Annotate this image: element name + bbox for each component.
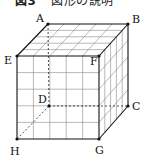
cube-diagram: ABCDEFGH	[0, 0, 148, 164]
right-face-grid-line	[99, 40, 128, 72]
edge-fb	[99, 24, 128, 56]
vertex-point-a	[46, 22, 49, 25]
vertex-label-d: D	[38, 93, 47, 106]
top-face-grid-line	[66, 24, 96, 56]
vertex-point-b	[126, 22, 129, 25]
vertex-label-c: C	[132, 100, 140, 113]
vertex-label-e: E	[4, 54, 12, 67]
vertex-labels: ABCDEFGH	[4, 12, 140, 158]
vertex-point-c	[126, 104, 129, 107]
vertex-label-g: G	[95, 144, 104, 157]
edge-cg	[99, 106, 128, 139]
vertex-label-h: H	[10, 145, 20, 158]
top-face-grid-line	[50, 24, 80, 56]
vertex-point-e	[15, 54, 18, 57]
vertex-label-b: B	[132, 13, 140, 26]
vertex-point-d	[47, 104, 50, 107]
vertex-point-h	[15, 137, 18, 140]
right-face-grid-line	[99, 57, 128, 89]
vertex-label-a: A	[35, 12, 45, 25]
top-face-grid-line	[33, 24, 64, 56]
top-face-grid-line	[83, 24, 112, 56]
edge-ea	[17, 24, 48, 56]
vertex-label-f: F	[90, 55, 98, 68]
right-face-grid-line	[99, 73, 128, 106]
vertex-point-f	[97, 54, 100, 57]
hidden-edge-da	[48, 24, 49, 106]
vertex-point-g	[97, 137, 100, 140]
